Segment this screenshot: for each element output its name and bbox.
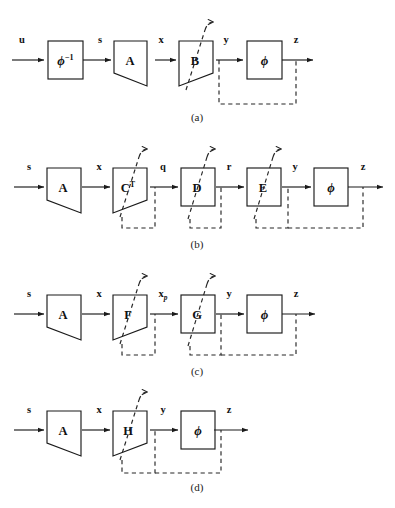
adaptive-slash-B [186,30,205,90]
page-caption [0,497,395,508]
block-A-label: A [125,54,134,68]
adaptive-arrow-D [207,149,215,157]
adaptive-arrow-G [207,276,215,284]
block-A-label: A [58,181,67,195]
signal-label-s: s [27,161,31,172]
signal-label-y: y [292,161,298,172]
panel-b-caption: (b) [191,238,204,251]
panel-b: s x q r y z A CT D E ϕ [0,127,395,254]
panel-a: u s x y z ϕ−1 A B ϕ (a) [0,0,395,127]
panel-c: s x xp y z A F G ϕ (c) [0,254,395,381]
block-phi-label: ϕ [194,423,202,438]
signal-label-s: s [98,34,102,45]
panel-a-caption: (a) [191,111,204,124]
signal-label-y: y [160,404,166,415]
signal-label-u: u [19,34,25,45]
block-B-label: B [191,54,199,68]
feedback-loop-z [288,187,363,228]
panel-c-caption: (c) [191,365,204,378]
signal-label-x: x [96,404,102,415]
signal-label-xp: xp [159,288,168,302]
signal-label-r: r [227,161,232,172]
signal-label-s: s [27,404,31,415]
adaptive-arrow-C [139,149,147,157]
feedback-loop-z [221,314,296,355]
adaptive-arrow-F [139,276,147,284]
block-A-label: A [58,424,67,438]
panel-d-caption: (d) [191,481,204,494]
signal-label-s: s [27,288,31,299]
block-C-transpose[interactable] [113,168,147,213]
adaptive-slash-G [188,284,207,346]
signal-label-z: z [361,161,366,172]
signal-label-y: y [223,34,229,45]
signal-label-q: q [160,161,166,172]
adaptive-arrow-E [273,149,281,157]
adaptive-slash-E [254,157,273,219]
signal-label-x: x [96,288,102,299]
adaptive-slash-D [188,157,207,219]
signal-label-z: z [294,288,299,299]
signal-label-z: z [227,404,232,415]
signal-label-z: z [294,34,299,45]
adaptive-slash-F [120,284,139,344]
signal-label-x: x [96,161,102,172]
feedback-loop-a [219,60,296,104]
block-phi-label: ϕ [327,180,335,195]
figure-container: u s x y z ϕ−1 A B ϕ (a) s x q [0,0,395,508]
block-C-transpose-label: CT [121,180,136,195]
block-phi-label: ϕ [261,307,269,322]
signal-label-x: x [158,34,164,45]
panel-d: s x y z A H ϕ (d) [0,381,395,508]
block-phi-inverse-label: ϕ−1 [57,53,73,68]
block-phi-label: ϕ [261,53,269,68]
adaptive-arrow-H [139,392,147,400]
block-A-label: A [58,308,67,322]
signal-label-y: y [226,288,232,299]
feedback-loop-z [155,430,221,473]
adaptive-arrow-B [205,22,213,30]
